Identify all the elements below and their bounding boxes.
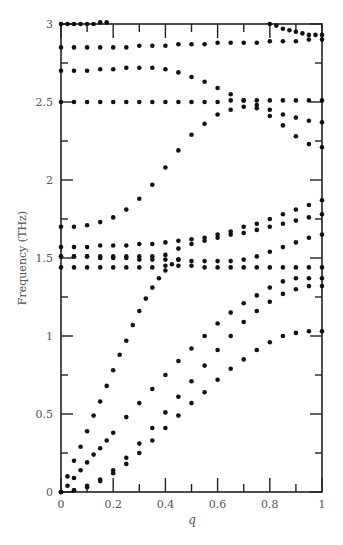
data-point: [202, 239, 207, 244]
data-point: [150, 65, 155, 70]
data-point: [215, 348, 220, 353]
data-point: [98, 479, 103, 484]
data-point: [137, 265, 142, 270]
data-point: [241, 225, 246, 230]
data-point: [241, 320, 246, 325]
data-point: [117, 352, 122, 357]
data-point: [137, 100, 142, 105]
data-point: [228, 92, 233, 97]
data-point: [228, 40, 233, 45]
data-point: [300, 31, 305, 36]
data-point: [313, 33, 318, 38]
data-point: [111, 368, 116, 373]
data-point: [241, 98, 246, 103]
data-point: [163, 426, 168, 431]
data-point: [228, 108, 233, 113]
data-point: [111, 45, 116, 50]
data-point: [150, 285, 155, 290]
data-point: [85, 223, 90, 228]
data-point: [215, 235, 220, 240]
data-point: [254, 293, 259, 298]
data-point: [307, 37, 312, 42]
data-point: [202, 259, 207, 264]
data-point: [65, 22, 70, 27]
data-point: [124, 256, 129, 261]
data-point: [268, 108, 273, 113]
data-point: [189, 346, 194, 351]
data-point: [111, 265, 116, 270]
data-point: [307, 118, 312, 123]
data-point: [124, 265, 129, 270]
data-point: [202, 122, 207, 127]
data-point: [215, 377, 220, 382]
data-point: [307, 203, 312, 208]
data-point: [254, 221, 259, 226]
data-point: [170, 262, 175, 267]
x-tick-label: 0.6: [209, 498, 227, 511]
data-point: [59, 69, 64, 74]
data-point: [254, 254, 259, 259]
data-point: [215, 86, 220, 91]
data-point: [176, 100, 181, 105]
data-point: [268, 39, 273, 44]
data-point: [254, 228, 259, 233]
series-branch-5: [59, 98, 325, 104]
y-tick-label: 1: [46, 330, 53, 343]
data-point: [163, 67, 168, 72]
data-point: [189, 42, 194, 47]
data-point: [281, 39, 286, 44]
data-point: [254, 309, 259, 314]
data-point: [176, 413, 181, 418]
data-point: [150, 438, 155, 443]
data-point: [137, 309, 142, 314]
data-point: [98, 20, 103, 25]
data-point: [202, 265, 207, 270]
data-point: [176, 239, 181, 244]
data-point: [163, 257, 168, 262]
series-branch-8: [59, 212, 325, 259]
data-point: [163, 100, 168, 105]
data-point: [176, 395, 181, 400]
data-point: [111, 67, 116, 72]
data-point: [98, 100, 103, 105]
data-point: [59, 254, 64, 259]
data-point: [65, 484, 70, 489]
data-point: [320, 212, 325, 217]
data-point: [163, 264, 168, 269]
data-point: [320, 37, 325, 42]
data-point: [98, 45, 103, 50]
data-point: [137, 196, 142, 201]
series-branch-6: [59, 104, 325, 229]
data-point: [202, 42, 207, 47]
series-branch-9: [59, 232, 325, 263]
data-point: [59, 245, 64, 250]
data-point: [72, 459, 77, 464]
data-point: [294, 30, 299, 35]
data-point: [176, 148, 181, 153]
y-tick-label: 0.5: [36, 408, 54, 421]
data-point: [307, 276, 312, 281]
data-points: [59, 20, 325, 494]
data-point: [91, 452, 96, 457]
data-point: [72, 254, 77, 259]
data-point: [98, 399, 103, 404]
data-point: [144, 296, 149, 301]
data-point: [320, 98, 325, 103]
data-point: [241, 231, 246, 236]
data-point: [281, 221, 286, 226]
data-point: [59, 225, 64, 230]
data-point: [104, 384, 109, 389]
data-point: [294, 265, 299, 270]
data-point: [157, 276, 162, 281]
data-point: [189, 242, 194, 247]
data-point: [150, 265, 155, 270]
y-tick-label: 0: [46, 486, 53, 499]
data-point: [189, 401, 194, 406]
data-point: [307, 265, 312, 270]
data-point: [85, 485, 90, 490]
x-tick-label: 0: [58, 498, 65, 511]
data-point: [294, 240, 299, 245]
series-branch-11: [59, 257, 181, 494]
data-point: [294, 207, 299, 212]
data-point: [72, 69, 77, 74]
